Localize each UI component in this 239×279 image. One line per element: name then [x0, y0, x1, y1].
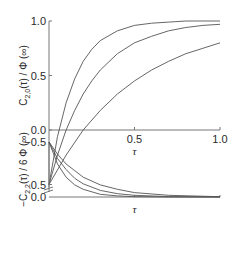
- chart-figure: 1.00.50.00.50.51.0 C2,0(τ) / Φ (∞) τ 0.0…: [0, 0, 239, 279]
- bottom-panel: 0.0−0.5 −C2,2(τ) / 6 Φ (∞) τ: [18, 132, 220, 215]
- top-y-tick-label: 0.5: [31, 70, 46, 82]
- top-x-tick-label: 0.5: [127, 133, 142, 145]
- top-curve-2: [49, 24, 220, 184]
- top-x-axis-label: τ: [133, 145, 138, 157]
- top-ticks: 1.00.50.00.50.51.0: [31, 15, 228, 191]
- top-y-tick-label: 0.0: [31, 124, 46, 136]
- top-y-tick-label: 0.5: [31, 179, 46, 191]
- bottom-y-tick-label: 0.0: [31, 191, 46, 203]
- top-y-axis-label: C2,0(τ) / Φ (∞): [18, 45, 31, 105]
- top-x-tick-label: 1.0: [212, 133, 227, 145]
- top-y-tick-label: 1.0: [31, 15, 46, 27]
- top-curve-3: [49, 43, 220, 185]
- bottom-x-axis-label: τ: [133, 203, 138, 215]
- top-curve-1: [49, 21, 220, 185]
- top-curves: [49, 21, 220, 185]
